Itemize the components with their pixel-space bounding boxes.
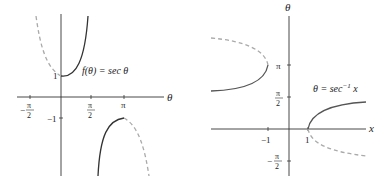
x-tick-label-one: 1 <box>305 135 310 145</box>
sec-graph: θ 1 −1 − π 2 π 2 π f(θ) = sec θ <box>17 14 173 176</box>
sec-dashed-left-branch <box>36 16 61 76</box>
svg-text:−: − <box>267 156 272 166</box>
sec-dashed-right-branch <box>124 118 149 176</box>
arcsec-solid-left-branch <box>211 65 268 91</box>
arcsec-dashed-upper-branch <box>211 38 268 65</box>
svg-text:θ = sec−1 x: θ = sec−1 x <box>313 82 358 94</box>
y-tick-label-one: 1 <box>53 71 58 81</box>
svg-text:π: π <box>275 152 279 161</box>
figure-canvas: θ 1 −1 − π 2 π 2 π f(θ) = sec θ <box>0 0 387 186</box>
sec-solid-lower-branch <box>98 118 124 176</box>
arcsec-graph: θ x −1 1 π π 2 − π 2 θ = sec−1 x <box>211 1 374 176</box>
svg-text:2: 2 <box>27 111 31 120</box>
svg-text:π: π <box>276 89 280 98</box>
svg-text:2: 2 <box>275 162 279 171</box>
sec-equation-label: f(θ) = sec θ <box>82 65 128 77</box>
svg-text:π: π <box>88 101 92 110</box>
arcsec-dashed-lower-branch <box>308 129 366 156</box>
y-tick-label-pi: π <box>276 61 281 71</box>
arcsec-equation-label: θ = sec−1 x <box>313 82 358 94</box>
svg-text:2: 2 <box>88 111 92 120</box>
y-tick-label-neg-one: −1 <box>47 114 57 124</box>
x-tick-label-pi: π <box>121 100 126 110</box>
y-tick-label-pi-half: π 2 <box>275 89 283 108</box>
x-tick-label-neg-pi-half: − π 2 <box>20 101 34 120</box>
x-axis-label: x <box>368 122 374 134</box>
x-tick-label-pi-half: π 2 <box>87 101 95 120</box>
y-tick-label-neg-pi-half: − π 2 <box>267 152 282 171</box>
svg-text:2: 2 <box>276 99 280 108</box>
svg-text:π: π <box>27 101 31 110</box>
arcsec-solid-right-branch <box>308 102 366 129</box>
x-tick-label-neg-one: −1 <box>261 135 271 145</box>
theta-axis-label: θ <box>167 91 173 103</box>
theta-axis-label: θ <box>285 1 291 13</box>
svg-text:−: − <box>20 105 25 115</box>
